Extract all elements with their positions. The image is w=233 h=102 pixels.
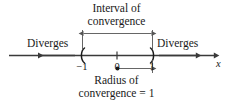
interval-of-convergence-figure: Interval of convergence Diverges Diverge… [0, 0, 233, 102]
tick-label-negative-one: −1 [72, 61, 92, 72]
radius-caption-line1: Radius of [0, 74, 233, 86]
diverges-right-label: Diverges [157, 37, 198, 49]
interval-title-line1: Interval of [0, 2, 233, 14]
tick-label-zero: 0 [107, 61, 127, 72]
tick-label-one: 1 [142, 61, 162, 72]
axis-variable-label: x [216, 58, 221, 69]
radius-caption-line2: convergence = 1 [0, 87, 233, 99]
diverges-left-label: Diverges [27, 37, 68, 49]
interval-title-line2: convergence [0, 15, 233, 27]
